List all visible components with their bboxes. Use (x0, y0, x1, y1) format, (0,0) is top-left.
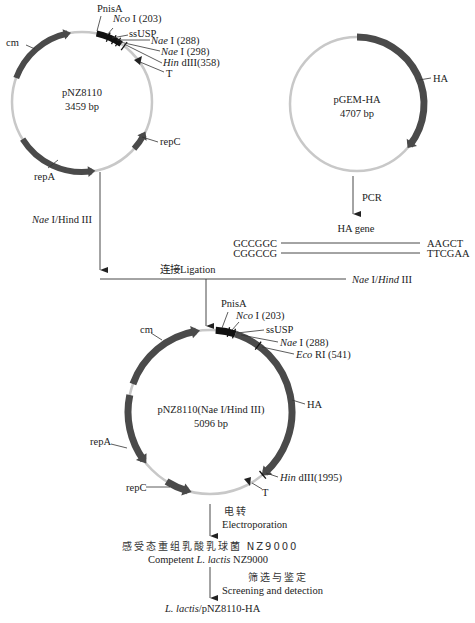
pnz8110-repc-label: repC (160, 136, 180, 147)
recomb-pnisa-promoter (216, 330, 236, 334)
recomb-cm-gene-arrowhead (190, 326, 200, 338)
recomb-ecori-label: Eco RI (541) (295, 349, 351, 361)
pnz8110-size: 3459 bp (65, 101, 99, 112)
electroporation-en: Electroporation (222, 519, 288, 530)
recomb-pnisa-label: PnisA (221, 298, 247, 309)
pgem-ha-label: HA (433, 73, 449, 84)
recomb-name: pNZ8110(Nae I/Hind III) (158, 404, 265, 416)
pcr-label: PCR (362, 192, 382, 203)
digest-left-label: Nae I/Hind III (31, 214, 93, 225)
competent-en: Competent L. lactis NZ9000 (148, 554, 268, 565)
recomb-ha-label: HA (307, 399, 323, 410)
seq-bot-right: TTCGAA (427, 248, 470, 259)
recomb-repa-label: repA (90, 436, 111, 447)
recomb-naei-label: Nae I (288) (279, 337, 329, 349)
ha-gene-label: HA gene (337, 223, 374, 234)
pnz8110-cm-gene (16, 34, 67, 79)
cloning-diagram: pNZ8110 3459 bp cm PnisA Nco I (203) ssU… (0, 0, 475, 623)
electroporation-cn: 电转 (224, 505, 248, 517)
plasmid-pnz8110: pNZ8110 3459 bp cm PnisA Nco I (203) ssU… (6, 3, 220, 182)
recomb-size: 5096 bp (194, 418, 228, 429)
plasmid-pgem-ha: pGEM-HA 4707 bp HA (290, 37, 449, 171)
recomb-t-label: T (262, 487, 269, 498)
pgem-name: pGEM-HA (333, 94, 381, 105)
screening-en: Screening and detection (222, 585, 324, 596)
pnz8110-name: pNZ8110 (62, 87, 102, 98)
pnz8110-t-label: T (166, 68, 173, 79)
pnz8110-ncoi-label: Nco I (203) (112, 13, 162, 25)
recomb-cm-label: cm (140, 324, 153, 335)
ligation-label: 连接Ligation (160, 263, 216, 275)
recomb-repa-gene (128, 395, 144, 460)
pgem-ha-gene (357, 37, 424, 145)
workflow: Nae I/Hind III PCR HA gene GCCGGC AAGCT … (31, 172, 470, 326)
seq-bot-left: CGGCCG (233, 248, 277, 259)
pnz8110-repa-label: repA (34, 171, 55, 182)
recomb-ssusp-label: ssUSP (266, 324, 294, 335)
final-strain: L. lactis/pNZ8110-HA (164, 603, 261, 614)
recomb-repc-label: repC (126, 482, 146, 493)
recomb-ncoi-label: Nco I (203) (235, 310, 285, 322)
pnz8110-cm-label: cm (6, 37, 19, 48)
pgem-size: 4707 bp (340, 108, 374, 119)
competent-cn: 感受态重组乳酸乳球菌 NZ9000 (122, 540, 299, 552)
pnz8110-repa-gene-arrowhead (88, 166, 96, 177)
pnz8110-repa-gene (23, 139, 92, 172)
screening-cn: 筛选与鉴定 (248, 571, 308, 583)
digest-right-label: Nae I/Hind III (351, 274, 413, 285)
recomb-hindiii-label: Hin dIII(1995) (279, 472, 343, 484)
downstream-steps: 电转 Electroporation 感受态重组乳酸乳球菌 NZ9000 Com… (122, 504, 324, 614)
plasmid-recombinant: pNZ8110(Nae I/Hind III) 5096 bp cm PnisA… (90, 298, 351, 498)
recomb-cm-gene (133, 331, 196, 384)
